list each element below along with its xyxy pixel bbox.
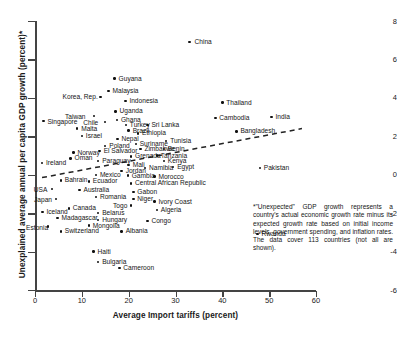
y-tick	[28, 98, 35, 99]
data-point-label: Guyana	[119, 75, 142, 82]
data-point-label: Ivory Coast	[158, 198, 191, 205]
y-axis-title: Unexplained average annual per capita GD…	[18, 10, 27, 300]
data-point	[99, 96, 101, 98]
data-point-label: Malta	[81, 125, 97, 132]
data-point-label: Ethiopia	[142, 129, 166, 136]
data-point	[114, 110, 116, 112]
data-point	[95, 174, 97, 176]
data-point-label: Romania	[100, 193, 126, 200]
data-point-label: Ireland	[46, 159, 66, 166]
data-point	[163, 160, 165, 162]
data-point-label: Central African Republic	[135, 179, 206, 186]
data-point	[132, 191, 134, 193]
data-point	[172, 166, 174, 168]
data-point-label: Sri Lanka	[151, 121, 179, 128]
data-point	[130, 204, 132, 206]
data-point	[92, 250, 94, 252]
data-point	[118, 267, 120, 269]
data-point	[93, 115, 95, 117]
y-tick	[28, 21, 35, 22]
data-point-label: El Salvador	[104, 147, 138, 154]
data-point-label: Algeria	[161, 206, 182, 213]
data-point	[60, 230, 62, 232]
x-axis-title: Average Import tariffs (percent)	[35, 311, 316, 320]
y-tick-label: 2	[375, 132, 397, 141]
data-point	[97, 261, 99, 263]
data-point	[104, 121, 106, 123]
data-point-label: Haiti	[98, 248, 111, 255]
data-point-label: Korea, Rep.	[63, 93, 98, 100]
x-tick-label: 0	[23, 296, 47, 305]
data-point	[146, 220, 148, 222]
data-point-label: Israel	[86, 132, 102, 139]
data-point-label: USA	[34, 186, 48, 193]
data-point-label: Malaysia	[113, 87, 139, 94]
data-point	[56, 217, 58, 219]
y-tick	[28, 213, 35, 214]
data-point-label: Estonia	[26, 224, 48, 231]
data-point	[124, 100, 126, 102]
scatter-plot-figure: 86420-2-4-6 0102030405060 ChinaGuyanaMal…	[0, 0, 397, 337]
x-tick-label: 40	[210, 296, 234, 305]
data-point-label: Thailand	[226, 99, 251, 106]
data-point	[120, 230, 122, 232]
data-point	[270, 116, 272, 118]
data-point	[188, 41, 190, 43]
data-point	[127, 129, 129, 131]
data-point-label: Madagascar	[61, 214, 97, 221]
data-point	[221, 101, 223, 103]
data-point-label: Singapore	[47, 118, 77, 125]
data-point	[81, 135, 83, 137]
y-tick-label: 4	[375, 93, 397, 102]
trend-line	[0, 0, 397, 337]
x-tick-label: 20	[117, 296, 141, 305]
data-point	[60, 179, 62, 181]
y-tick	[28, 175, 35, 176]
data-point-label: Pakistan	[264, 164, 289, 171]
data-point-label: India	[276, 113, 290, 120]
y-tick	[28, 290, 35, 291]
data-point	[41, 162, 43, 164]
data-point	[156, 209, 158, 211]
data-point	[107, 90, 109, 92]
data-point	[127, 174, 129, 176]
data-point-label: Bangladesh	[240, 127, 275, 134]
data-point-label: Japan	[34, 196, 52, 203]
y-tick	[28, 252, 35, 253]
data-point-label: Gambia	[132, 172, 155, 179]
footnote-text: *"Unexpected" GDP growth represents a co…	[253, 203, 393, 253]
data-point-label: Switzerland	[65, 227, 99, 234]
data-point-label: Ecuador	[93, 177, 118, 184]
data-point-label: Namibia	[149, 164, 173, 171]
y-tick-label: 8	[375, 17, 397, 26]
data-point-label: Bahrain	[65, 176, 88, 183]
data-point	[42, 120, 44, 122]
data-point	[97, 160, 99, 162]
data-point-label: China	[195, 38, 212, 45]
data-point	[78, 189, 80, 191]
data-point-label: Oman	[75, 154, 93, 161]
data-point	[235, 130, 237, 132]
data-point-label: Congo	[151, 217, 170, 224]
data-point	[113, 77, 115, 79]
data-point-label: Tunisia	[170, 137, 191, 144]
data-point	[139, 148, 141, 150]
data-point	[116, 119, 118, 121]
data-point-label: Niger	[137, 195, 153, 202]
data-point	[153, 200, 155, 202]
data-point	[130, 182, 132, 184]
data-point-label: Paraguay	[102, 157, 130, 164]
data-point-label: Indonesia	[129, 97, 158, 104]
data-point	[163, 148, 165, 150]
data-point-label: Cambodia	[219, 114, 249, 121]
x-tick-label: 10	[70, 296, 94, 305]
y-tick	[28, 136, 35, 137]
data-point	[51, 188, 53, 190]
x-tick-label: 30	[164, 296, 188, 305]
data-point	[125, 124, 127, 126]
data-point-label: Grenada	[135, 152, 161, 159]
y-tick-label: -6	[375, 286, 397, 295]
data-point	[116, 138, 118, 140]
y-axis-line	[35, 21, 37, 291]
data-point	[153, 175, 155, 177]
